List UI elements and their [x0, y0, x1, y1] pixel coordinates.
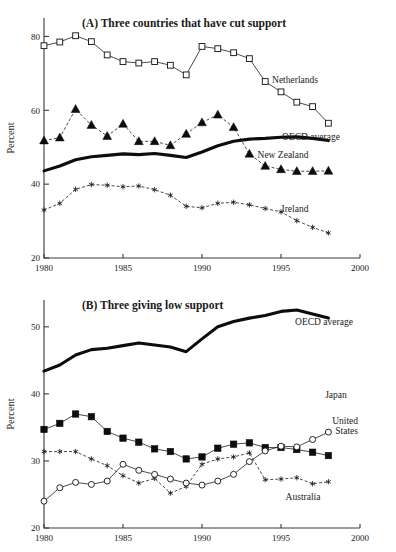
x-tick-label: 2000	[351, 533, 370, 543]
panel-title: (A) Three countries that have cut suppor…	[82, 17, 286, 30]
data-point-marker	[325, 452, 331, 458]
data-point-marker	[262, 448, 268, 454]
data-point-marker	[167, 476, 173, 482]
data-point-marker	[121, 473, 126, 478]
panel-title: (B) Three giving low support	[82, 299, 224, 312]
data-point-marker	[41, 498, 47, 504]
data-point-marker	[136, 467, 142, 473]
series-label: United	[332, 416, 358, 426]
data-point-marker	[278, 443, 284, 449]
data-point-marker	[42, 207, 47, 212]
data-point-marker	[41, 43, 47, 49]
data-point-marker	[104, 52, 110, 58]
data-point-marker	[324, 166, 333, 174]
data-point-marker	[246, 459, 252, 465]
series-label: States	[335, 426, 358, 436]
series-label: OECD average	[282, 132, 340, 142]
data-point-marker	[215, 478, 221, 484]
series-oecd-average	[44, 310, 328, 371]
data-point-marker	[152, 471, 158, 477]
data-point-marker	[150, 137, 159, 145]
series-label: Japan	[325, 390, 347, 400]
data-point-marker	[89, 39, 95, 45]
x-tick-label: 1980	[35, 263, 54, 273]
y-tick-label: 40	[31, 389, 41, 399]
data-point-marker	[72, 411, 78, 417]
data-point-marker	[199, 454, 205, 460]
data-point-marker	[73, 449, 78, 454]
data-point-marker	[73, 33, 79, 39]
data-point-marker	[121, 184, 126, 189]
data-point-marker	[120, 59, 126, 65]
data-point-marker	[310, 436, 316, 442]
data-point-marker	[326, 120, 332, 126]
data-point-marker	[261, 161, 270, 169]
data-point-marker	[120, 461, 126, 467]
data-point-marker	[104, 428, 110, 434]
data-point-marker	[247, 56, 253, 62]
x-tick-label: 2000	[351, 263, 370, 273]
data-point-marker	[73, 479, 79, 485]
data-point-marker	[88, 413, 94, 419]
data-point-marker	[168, 62, 174, 68]
series-line	[44, 432, 328, 501]
panel-a: 2040608019801985199019952000Percent(A) T…	[5, 17, 370, 273]
data-point-marker	[245, 149, 254, 157]
data-point-marker	[41, 426, 47, 432]
data-point-marker	[231, 471, 237, 477]
series-united-states	[41, 411, 332, 462]
data-point-marker	[57, 420, 63, 426]
x-tick-label: 1980	[35, 533, 54, 543]
data-point-marker	[182, 129, 191, 137]
data-point-marker	[136, 439, 142, 445]
x-tick-label: 1995	[272, 263, 291, 273]
series-label: New Zealand	[258, 150, 309, 160]
data-point-marker	[229, 123, 238, 131]
data-point-marker	[294, 444, 300, 450]
data-point-marker	[294, 218, 299, 223]
data-point-marker	[151, 446, 157, 452]
data-point-marker	[199, 44, 205, 50]
data-point-marker	[104, 478, 110, 484]
data-point-marker	[152, 59, 158, 65]
y-axis-title: Percent	[5, 122, 16, 154]
data-point-marker	[183, 456, 189, 462]
series-label: Australia	[286, 492, 322, 502]
y-tick-label: 20	[31, 523, 41, 533]
data-point-marker	[308, 167, 317, 175]
data-point-marker	[88, 481, 94, 487]
y-tick-label: 80	[31, 32, 41, 42]
data-point-marker	[310, 225, 315, 230]
data-point-marker	[183, 480, 189, 486]
data-point-marker	[200, 205, 205, 210]
x-tick-label: 1990	[193, 263, 212, 273]
data-point-marker	[294, 99, 300, 105]
y-tick-label: 40	[31, 179, 41, 189]
data-point-marker	[213, 110, 222, 118]
y-tick-label: 60	[31, 106, 41, 116]
chart-canvas: 2040608019801985199019952000Percent(A) T…	[0, 0, 396, 552]
data-point-marker	[136, 60, 142, 66]
data-point-marker	[136, 480, 141, 485]
data-point-marker	[198, 118, 207, 126]
data-point-marker	[215, 201, 220, 206]
data-point-marker	[55, 133, 64, 141]
data-point-marker	[103, 132, 112, 140]
series-label: Netherlands	[272, 75, 318, 85]
panel-b: 2030405019801985199019952000Percent(B) T…	[5, 299, 370, 543]
series-line	[44, 310, 328, 371]
data-point-marker	[57, 485, 63, 491]
data-point-marker	[215, 445, 221, 451]
data-point-marker	[120, 435, 126, 441]
y-tick-label: 30	[31, 456, 41, 466]
data-point-marker	[134, 137, 143, 145]
x-tick-label: 1985	[114, 263, 133, 273]
data-point-marker	[294, 475, 299, 480]
data-point-marker	[57, 201, 62, 206]
x-tick-label: 1985	[114, 533, 133, 543]
data-point-marker	[105, 463, 110, 468]
x-tick-label: 1995	[272, 533, 291, 543]
data-point-marker	[57, 39, 63, 45]
data-point-marker	[326, 230, 331, 235]
data-point-marker	[325, 429, 331, 435]
